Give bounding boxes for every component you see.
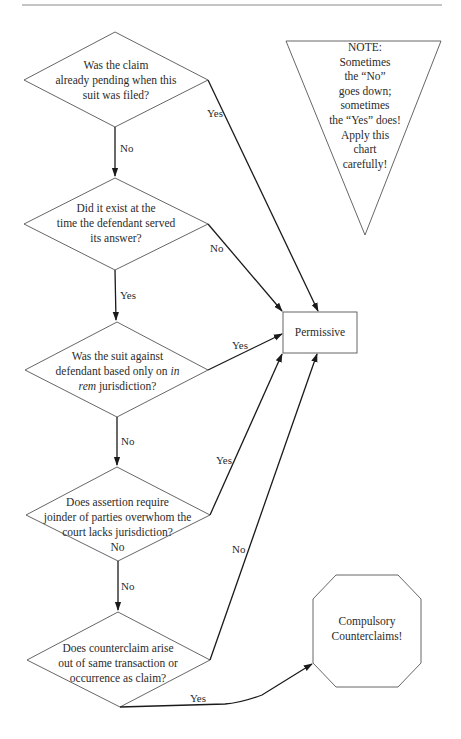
note-line-2: Sometimes [320,55,410,70]
decision-1-line-2: already pending when this [40,73,192,88]
note-line-4: goes down; [320,84,410,99]
decision-4-inner-no-label: No [36,540,199,555]
edge-label-d4-no: No [121,580,134,592]
edge-label-d3-no: No [121,435,134,447]
note-line-1: NOTE: [320,40,410,55]
note-line-8: chart [320,142,410,157]
note-line-3: the “No” [320,69,410,84]
edge-label-d1-no: No [120,142,133,154]
arrow-d2-no [208,224,282,311]
compulsory-line-1: Compulsory [313,614,421,629]
edge-label-d2-no: No [210,242,223,254]
decision-3-text: Was the suit against defendant based onl… [40,349,195,394]
edge-label-d3-yes: Yes [232,339,248,351]
note-line-7: Apply this [320,128,410,143]
decision-3-italic-rem: rem [79,380,96,392]
decision-3-line-2-text: defendant based only on [56,365,168,377]
decision-4-line-2: joinder of parties overwhom the [36,510,199,525]
decision-2-text: Did it exist at the time the defendant s… [40,201,192,246]
permissive-label: Permissive [283,325,357,340]
decision-3-line-2: defendant based only on in [40,364,195,379]
decision-3-line-3: rem jurisdiction? [40,379,195,394]
edge-label-d5-yes: Yes [190,692,206,704]
arrow-d2-yes [115,270,116,320]
decision-3-line-3-text: jurisdiction? [99,380,157,392]
edge-label-d2-yes: Yes [120,289,136,301]
decision-5-text: Does counterclaim arise out of same tran… [42,641,194,686]
decision-1-line-3: suit was filed? [40,88,192,103]
decision-4-line-1: Does assertion require [36,495,199,510]
compulsory-line-2: Counterclaims! [313,629,421,644]
note-text: NOTE: Sometimes the “No” goes down; some… [320,40,410,171]
note-line-6: the “Yes” does! [320,113,410,128]
decision-4-text: Does assertion require joinder of partie… [36,495,199,555]
note-line-5: sometimes [320,98,410,113]
decision-2-line-3: its answer? [40,231,192,246]
arrow-d4-yes [210,354,282,515]
decision-2-line-2: time the defendant served [40,216,192,231]
decision-2-line-1: Did it exist at the [40,201,192,216]
decision-4-line-3: court lacks jurisdiction? [36,525,199,540]
note-line-9: carefully! [320,157,410,172]
decision-5-line-2: out of same transaction or [42,656,194,671]
compulsory-label: Compulsory Counterclaims! [313,614,421,644]
decision-5-line-1: Does counterclaim arise [42,641,194,656]
edge-label-d1-yes: Yes [207,107,223,119]
arrow-d5-no [210,354,317,660]
edge-label-d5-no: No [232,543,245,555]
edge-label-d4-yes: Yes [216,454,232,466]
decision-3-italic-in: in [171,365,180,377]
arrow-d1-yes [208,80,318,311]
decision-5-line-3: occurrence as claim? [42,671,194,686]
decision-1-text: Was the claim already pending when this … [40,58,192,103]
decision-3-line-1: Was the suit against [40,349,195,364]
decision-1-line-1: Was the claim [40,58,192,73]
